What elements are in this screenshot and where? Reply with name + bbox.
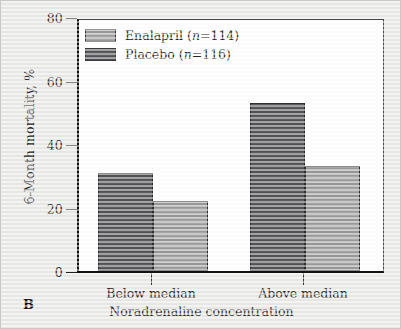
y-tick-mark bbox=[66, 272, 77, 273]
y-axis: 020406080 bbox=[1, 1, 77, 329]
bar-placebo-above-median bbox=[250, 103, 305, 271]
bar-enalapril-below-median bbox=[153, 201, 208, 271]
y-tick-mark bbox=[66, 82, 77, 83]
figure-panel: 020406080 6-Month mortality, % Below med… bbox=[0, 0, 401, 329]
x-tick-label: Above median bbox=[258, 286, 348, 301]
x-axis-title: Noradrenaline concentration bbox=[1, 304, 401, 319]
legend-swatch-enalapril bbox=[85, 29, 116, 42]
legend-item: Placebo (n=116) bbox=[85, 46, 239, 63]
bar-placebo-below-median bbox=[98, 173, 153, 271]
x-tick-label: Below median bbox=[106, 286, 196, 301]
y-tick-mark bbox=[66, 145, 77, 146]
y-tick-label: 40 bbox=[47, 137, 63, 155]
y-tick-label: 20 bbox=[47, 201, 63, 219]
chart-legend: Enalapril (n=114)Placebo (n=116) bbox=[85, 27, 239, 65]
legend-label-placebo: Placebo (n=116) bbox=[125, 47, 231, 62]
x-tick-mark bbox=[303, 273, 304, 285]
legend-swatch-placebo bbox=[85, 48, 116, 61]
x-tick-mark bbox=[151, 273, 152, 285]
y-tick-label: 80 bbox=[47, 10, 63, 28]
y-axis-title: 6-Month mortality, % bbox=[22, 47, 37, 227]
legend-item: Enalapril (n=114) bbox=[85, 27, 239, 44]
y-tick-label: 0 bbox=[55, 264, 63, 282]
y-tick-mark bbox=[66, 209, 77, 210]
y-tick-label: 60 bbox=[47, 74, 63, 92]
y-tick-mark bbox=[66, 18, 77, 19]
bar-enalapril-above-median bbox=[305, 166, 360, 271]
legend-label-enalapril: Enalapril (n=114) bbox=[125, 28, 239, 43]
panel-label: B bbox=[23, 297, 34, 312]
